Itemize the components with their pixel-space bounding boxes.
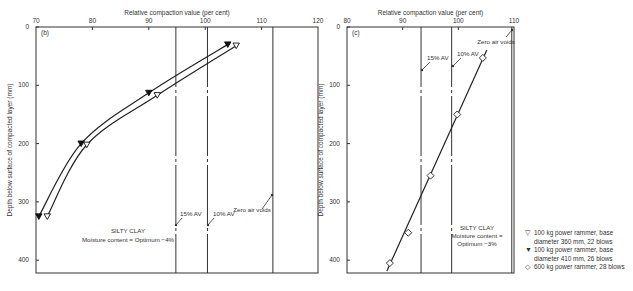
y-tick-label: 0 bbox=[25, 23, 29, 30]
y-tick-label: 100 bbox=[18, 81, 29, 88]
soil-annotation: Moisture content = Optimum −4% bbox=[82, 236, 175, 243]
x-axis-title: Relative compaction value (per cent) bbox=[378, 9, 484, 17]
y-tick-label: 200 bbox=[329, 140, 340, 147]
diamond-icon: ◇ bbox=[525, 263, 534, 272]
x-tick-label: 90 bbox=[145, 17, 153, 24]
filled-triangle-marker bbox=[36, 214, 42, 220]
y-tick-label: 0 bbox=[336, 23, 340, 30]
arrow-head bbox=[207, 224, 209, 226]
chart-panel-b bbox=[36, 27, 318, 273]
legend-item-filled-triangle: ▼ 100 kg power rammer, basediameter 410 … bbox=[525, 246, 625, 263]
x-tick-label: 120 bbox=[313, 17, 324, 24]
reference-line-label: 15% AV bbox=[180, 210, 202, 217]
filled-triangle-icon: ▼ bbox=[525, 246, 534, 255]
arrow-head bbox=[452, 65, 454, 67]
x-axis-title: Relative compaction value (per cent) bbox=[124, 9, 230, 17]
soil-annotation: SILTY CLAY bbox=[111, 227, 145, 234]
soil-annotation: Optimum −3% bbox=[457, 240, 497, 247]
open-triangle-marker bbox=[44, 214, 50, 220]
x-tick-label: 70 bbox=[32, 17, 40, 24]
arrow-head bbox=[511, 29, 513, 31]
open-triangle-icon: ▽ bbox=[525, 229, 534, 238]
arrow-head bbox=[421, 69, 423, 71]
diamond-marker bbox=[479, 54, 486, 61]
reference-line-label: Zero air voids bbox=[477, 38, 514, 45]
y-tick-label: 400 bbox=[329, 256, 340, 263]
diamond-marker bbox=[386, 260, 393, 267]
soil-annotation: SILTY CLAY bbox=[460, 224, 494, 231]
reference-line-label: 10% AV bbox=[213, 210, 235, 217]
legend-item-diamond: ◇ 600 kg power rammer, 28 blows bbox=[525, 263, 625, 272]
annotation-arrow bbox=[208, 218, 214, 225]
annotation-arrow bbox=[176, 218, 182, 225]
panel-label: (b) bbox=[41, 29, 49, 37]
x-tick-label: 80 bbox=[343, 17, 351, 24]
reference-line-label: 15% AV bbox=[427, 54, 449, 61]
y-tick-label: 400 bbox=[18, 256, 29, 263]
x-tick-label: 110 bbox=[509, 17, 520, 24]
series-line bbox=[39, 44, 228, 216]
annotation-arrow bbox=[422, 62, 430, 70]
x-tick-label: 90 bbox=[399, 17, 407, 24]
y-tick-label: 300 bbox=[18, 198, 29, 205]
y-tick-label: 200 bbox=[18, 140, 29, 147]
y-tick-label: 300 bbox=[329, 198, 340, 205]
open-triangle-marker bbox=[233, 43, 239, 49]
diamond-marker bbox=[427, 172, 434, 179]
annotation-arrow bbox=[453, 58, 461, 66]
diamond-marker bbox=[454, 111, 461, 118]
arrow-head bbox=[271, 194, 273, 196]
y-axis-title: Depth below surface of compacted layer (… bbox=[6, 84, 14, 217]
reference-line-label: 10% AV bbox=[457, 50, 479, 57]
legend: ▽ 100 kg power rammer, basediameter 360 … bbox=[525, 229, 625, 272]
y-axis-title: Depth below surface of compacted layer (… bbox=[317, 84, 325, 217]
arrow-head bbox=[175, 224, 177, 226]
filled-triangle-marker bbox=[225, 42, 231, 48]
panel-label: (c) bbox=[352, 29, 360, 37]
x-tick-label: 100 bbox=[453, 17, 464, 24]
legend-item-open-triangle: ▽ 100 kg power rammer, basediameter 360 … bbox=[525, 229, 625, 246]
x-tick-label: 110 bbox=[256, 17, 267, 24]
x-tick-label: 100 bbox=[200, 17, 211, 24]
annotation-arrow bbox=[506, 30, 512, 37]
soil-annotation: Moisture content = bbox=[451, 232, 502, 239]
x-tick-label: 80 bbox=[89, 17, 97, 24]
plot-frame bbox=[36, 27, 318, 273]
reference-line-label: Zero air voids bbox=[233, 206, 270, 213]
y-tick-label: 100 bbox=[329, 81, 340, 88]
